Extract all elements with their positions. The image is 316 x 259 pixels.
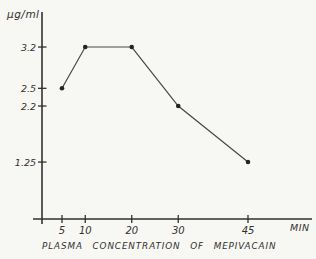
chart-caption: PLASMA CONCENTRATION OF MEPIVACAIN <box>42 241 276 251</box>
x-tick-label: 5 <box>59 225 65 236</box>
y-axis-label: µg/ml <box>7 8 40 20</box>
x-tick-label: 20 <box>125 225 138 236</box>
data-point <box>83 45 88 50</box>
data-point <box>60 86 65 91</box>
data-point <box>246 160 251 165</box>
x-axis-label: MIN <box>290 222 310 233</box>
line-chart: 3.22.52.21.25510203045 <box>0 0 316 259</box>
x-tick-label: 10 <box>79 225 92 236</box>
data-line <box>62 47 248 162</box>
x-tick-label: 45 <box>242 225 255 236</box>
x-tick-label: 30 <box>172 225 185 236</box>
y-tick-label: 2.5 <box>21 83 36 94</box>
data-point <box>129 45 134 50</box>
y-tick-label: 1.25 <box>15 157 36 168</box>
chart-panel: 3.22.52.21.25510203045 µg/ml MIN PLASMA … <box>0 0 316 259</box>
y-tick-label: 2.2 <box>21 101 36 112</box>
y-tick-label: 3.2 <box>21 42 36 53</box>
data-point <box>176 104 181 109</box>
